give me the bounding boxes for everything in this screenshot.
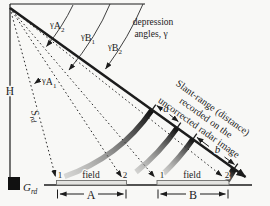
dim-b-label: B	[189, 188, 197, 202]
field-b-name: field	[183, 170, 201, 180]
field-a-point2: 2	[123, 170, 128, 180]
field-a-rect	[57, 181, 127, 186]
dim-a-label: A	[87, 188, 96, 202]
depression-caption-line2: angles, γ	[134, 29, 167, 39]
nadir-marker	[8, 177, 20, 190]
field-b-point2: 2	[225, 170, 230, 180]
field-a-point1: 1	[58, 170, 63, 180]
radar-geometry-figure: a b γA2 γB1 γB2 γA1 depression angles, γ…	[0, 0, 270, 206]
field-b-point1: 1	[160, 170, 165, 180]
altitude-label: H	[6, 85, 14, 97]
depression-caption-line1: depression	[133, 17, 174, 27]
field-b-rect	[157, 181, 229, 186]
field-a-name: field	[82, 170, 100, 180]
